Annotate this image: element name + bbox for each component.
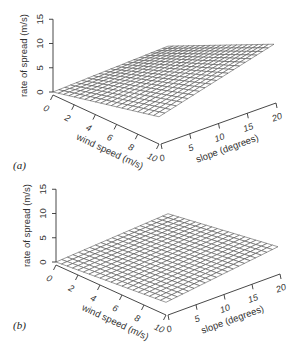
z-tick-label: 5: [37, 235, 48, 240]
wind-tick-label: 4: [84, 122, 93, 133]
z-tick-label: 5: [34, 65, 45, 70]
wind-tick-label: 6: [105, 132, 114, 143]
surface-mesh: [56, 214, 278, 303]
panel-a: 051015rate of spread (m/s)0246810wind sp…: [13, 14, 283, 172]
slope-axis-label: slope (degrees): [200, 303, 266, 336]
z-tick-label: 10: [34, 38, 45, 49]
surface-mesh: [53, 44, 274, 117]
wind-tick-label: 0: [42, 103, 51, 114]
wind-tick-label: 6: [111, 303, 120, 314]
wind-tick-label: 8: [127, 142, 136, 153]
figure: 051015rate of spread (m/s)0246810wind sp…: [0, 0, 302, 351]
z-tick-label: 15: [34, 14, 45, 25]
wind-tick-label: 2: [66, 282, 76, 294]
slope-tick-label: 5: [187, 142, 196, 153]
slope-tick-label: 0: [158, 153, 166, 164]
slope-tick-label: 10: [219, 302, 232, 315]
wind-tick-label: 0: [45, 273, 54, 284]
z-axis: 051015rate of spread (m/s): [18, 14, 53, 97]
z-tick-label: 10: [37, 208, 48, 219]
panel-label: (a): [13, 159, 26, 172]
slope-tick-label: 10: [213, 131, 226, 144]
wind-tick-label: 10: [153, 322, 166, 335]
z-tick-label: 15: [37, 184, 48, 195]
panel-b: 051015rate of spread (m/s)0246810wind sp…: [13, 184, 287, 342]
surface-plots: 051015rate of spread (m/s)0246810wind sp…: [0, 0, 302, 351]
wind-tick-label: 4: [89, 293, 98, 304]
wind-tick-label: 8: [133, 313, 142, 324]
slope-axis: 05101520slope (degrees): [158, 103, 283, 165]
slope-tick-label: 20: [270, 111, 284, 124]
z-tick-label: 0: [37, 259, 48, 264]
slope-tick-label: 20: [274, 282, 288, 295]
slope-tick-label: 0: [165, 324, 173, 335]
panel-label: (b): [13, 319, 26, 332]
z-axis-label: rate of spread (m/s): [18, 14, 29, 97]
z-tick-label: 0: [34, 89, 45, 94]
wind-tick-label: 10: [146, 151, 159, 164]
slope-axis-label: slope (degrees): [194, 132, 260, 165]
wind-tick-label: 2: [62, 112, 72, 124]
z-axis-label: rate of spread (m/s): [21, 184, 32, 267]
z-axis: 051015rate of spread (m/s): [21, 184, 56, 267]
slope-tick-label: 5: [193, 313, 202, 324]
